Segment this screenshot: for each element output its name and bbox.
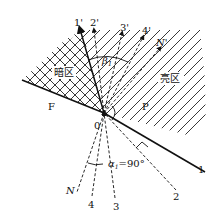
ray-1prime (80, 29, 104, 113)
surface-line-F (22, 80, 104, 113)
alpha-arc (88, 163, 103, 165)
right-angle-mark (136, 142, 148, 148)
origin-label: 0 (94, 120, 100, 131)
bright-region-label: 亮区 (160, 72, 180, 84)
ray-label-1prime: 1' (74, 17, 83, 28)
ray-label-3: 3 (113, 201, 119, 212)
refraction-diagram: 暗区 亮区 1' 2' 3' 4' N' β1 F P 0 α1=90° 1 2… (0, 0, 220, 219)
ray-label-3prime: 3' (120, 22, 129, 33)
ray-label-2prime: 2' (90, 17, 99, 28)
normal-label-Nprime: N' (155, 37, 168, 48)
point-label-P: P (142, 101, 149, 112)
normal-label-N: N (65, 185, 76, 196)
alpha-label: α1=90° (108, 158, 145, 170)
dark-region-label: 暗区 (54, 66, 74, 78)
ray-3 (104, 113, 115, 198)
point-label-F: F (48, 101, 55, 112)
ray-label-1: 1 (198, 164, 204, 175)
ray-label-4prime: 4' (142, 25, 151, 36)
ray-label-2: 2 (173, 191, 179, 202)
ray-label-4: 4 (88, 199, 94, 210)
